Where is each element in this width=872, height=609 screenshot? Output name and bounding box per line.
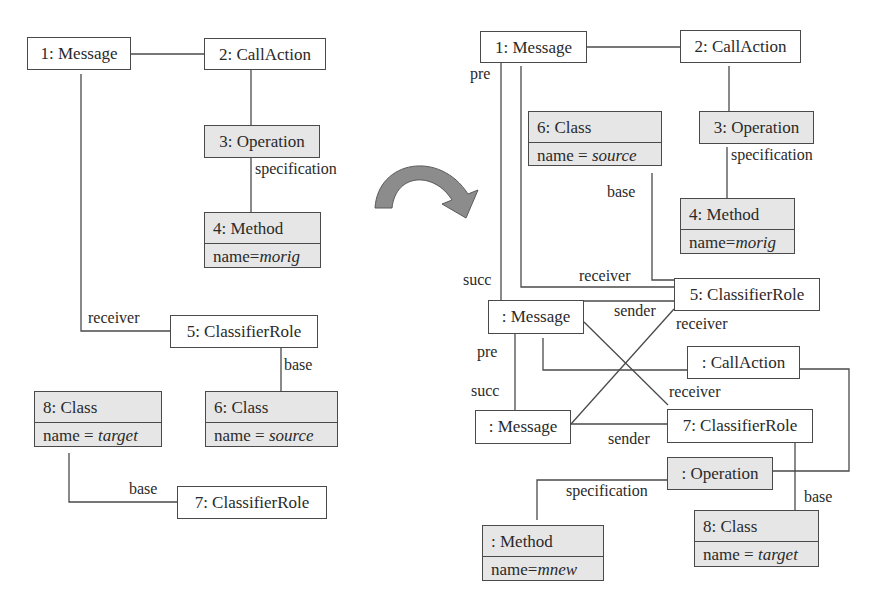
node-title: 5: ClassifierRole bbox=[675, 279, 819, 310]
node-r-operation-new[interactable]: : Operation bbox=[667, 457, 773, 490]
label-succ: succ bbox=[471, 383, 499, 399]
node-title: 3: Operation bbox=[700, 112, 813, 143]
node-title: 2: CallAction bbox=[681, 31, 800, 62]
edge-class8-classifierrole7 bbox=[69, 453, 177, 502]
node-class-8[interactable]: 8: Class name = target bbox=[34, 391, 162, 447]
node-title: 8: Class bbox=[695, 511, 818, 541]
node-message-1[interactable]: 1: Message bbox=[27, 37, 131, 70]
node-title: 6: Class bbox=[206, 392, 337, 422]
node-r-method-4[interactable]: 4: Method name=morig bbox=[680, 198, 795, 254]
node-title: : Message bbox=[476, 411, 570, 442]
node-r-message-b[interactable]: : Message bbox=[475, 410, 571, 444]
edge-r-messageA-classifierrole7 bbox=[584, 322, 668, 405]
node-attribute: name=mnew bbox=[483, 556, 603, 583]
label-succ: succ bbox=[463, 272, 491, 288]
label-base: base bbox=[607, 184, 635, 200]
node-r-message-1[interactable]: 1: Message bbox=[480, 31, 587, 63]
node-r-classifierrole-5[interactable]: 5: ClassifierRole bbox=[674, 278, 820, 311]
node-title: 5: ClassifierRole bbox=[171, 316, 317, 347]
edge-message-classifierrole bbox=[81, 74, 170, 331]
node-title: : Message bbox=[489, 301, 583, 332]
label-receiver: receiver bbox=[579, 268, 631, 284]
node-title: : CallAction bbox=[688, 347, 799, 378]
label-specification: specification bbox=[255, 161, 337, 177]
node-title: 3: Operation bbox=[205, 126, 319, 157]
label-base: base bbox=[129, 481, 157, 497]
label-receiver: receiver bbox=[88, 310, 140, 326]
node-classifierrole-7[interactable]: 7: ClassifierRole bbox=[177, 486, 327, 519]
node-r-callaction-new[interactable]: : CallAction bbox=[687, 346, 800, 379]
node-callaction-2[interactable]: 2: CallAction bbox=[204, 38, 326, 70]
diagram-canvas: 1: Message 2: CallAction 3: Operation 4:… bbox=[0, 0, 872, 609]
label-receiver: receiver bbox=[669, 384, 721, 400]
label-base: base bbox=[284, 357, 312, 373]
node-attribute: name = source bbox=[206, 422, 337, 449]
node-attribute: name = target bbox=[695, 541, 818, 568]
node-class-6[interactable]: 6: Class name = source bbox=[205, 391, 338, 447]
node-method-4[interactable]: 4: Method name=morig bbox=[204, 212, 321, 268]
node-title: : Method bbox=[483, 526, 603, 556]
edge-r-messageB-classifierrole5 bbox=[571, 309, 674, 424]
label-sender: sender bbox=[608, 431, 650, 447]
label-receiver: receiver bbox=[676, 316, 728, 332]
node-title: 7: ClassifierRole bbox=[668, 410, 812, 441]
node-attribute: name = source bbox=[529, 142, 661, 169]
node-operation-3[interactable]: 3: Operation bbox=[204, 125, 320, 158]
node-attribute: name=morig bbox=[205, 243, 320, 270]
edge-r-class6-classifierrole5 bbox=[652, 173, 674, 280]
node-title: 1: Message bbox=[28, 38, 130, 69]
node-r-callaction-2[interactable]: 2: CallAction bbox=[680, 30, 801, 63]
node-r-class-6[interactable]: 6: Class name = source bbox=[528, 111, 662, 166]
node-attribute: name = target bbox=[35, 422, 161, 449]
node-r-classifierrole-7[interactable]: 7: ClassifierRole bbox=[667, 409, 813, 443]
label-pre: pre bbox=[470, 66, 490, 82]
node-title: : Operation bbox=[668, 458, 772, 489]
node-r-message-a[interactable]: : Message bbox=[488, 300, 584, 334]
node-title: 2: CallAction bbox=[205, 39, 325, 70]
node-r-class-8[interactable]: 8: Class name = target bbox=[694, 510, 819, 567]
curved-arrow-icon bbox=[375, 166, 478, 218]
label-base: base bbox=[804, 489, 832, 505]
node-classifierrole-5[interactable]: 5: ClassifierRole bbox=[170, 315, 318, 348]
label-pre: pre bbox=[477, 344, 497, 360]
edge-r-message1-classifierrole5 bbox=[521, 66, 674, 287]
label-specification: specification bbox=[731, 147, 813, 163]
label-sender: sender bbox=[614, 303, 656, 319]
node-title: 6: Class bbox=[529, 112, 661, 142]
node-r-operation-3[interactable]: 3: Operation bbox=[699, 111, 814, 144]
node-attribute: name=morig bbox=[681, 229, 794, 256]
node-title: 4: Method bbox=[205, 213, 320, 243]
node-title: 1: Message bbox=[481, 32, 586, 63]
node-r-method-new[interactable]: : Method name=mnew bbox=[482, 525, 604, 581]
edge-r-messageA-callaction bbox=[543, 338, 687, 370]
label-specification: specification bbox=[566, 483, 648, 499]
node-title: 7: ClassifierRole bbox=[178, 487, 326, 518]
node-title: 8: Class bbox=[35, 392, 161, 422]
node-title: 4: Method bbox=[681, 199, 794, 229]
